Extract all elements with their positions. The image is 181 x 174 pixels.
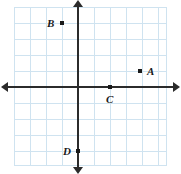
point-c-label: C xyxy=(106,94,113,105)
y-axis-down-arrow-icon xyxy=(73,167,83,174)
point-d-marker xyxy=(76,149,80,153)
coordinate-plane: A B C D xyxy=(0,0,181,174)
x-axis-right-arrow-icon xyxy=(173,82,180,92)
y-axis xyxy=(77,4,79,170)
point-a-marker xyxy=(138,69,142,73)
point-b-marker xyxy=(60,21,64,25)
x-axis-left-arrow-icon xyxy=(1,82,8,92)
point-c-marker xyxy=(108,85,112,89)
point-a-label: A xyxy=(147,66,154,77)
point-d-label: D xyxy=(63,146,71,157)
x-axis xyxy=(6,86,176,88)
point-b-label: B xyxy=(47,18,54,29)
y-axis-up-arrow-icon xyxy=(73,0,83,7)
